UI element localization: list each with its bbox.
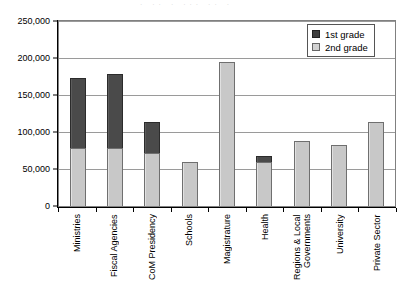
- bar-segment-second-grade: [107, 148, 123, 206]
- bar-stack[interactable]: [368, 122, 384, 206]
- bar-slot: [134, 21, 171, 206]
- bar-segment-first-grade: [144, 122, 160, 152]
- x-axis-label: Ministries: [72, 214, 82, 308]
- x-axis-label-slot: Health: [246, 214, 284, 308]
- bar-stack[interactable]: [144, 122, 160, 206]
- x-axis-label-slot: Private Sector: [359, 214, 397, 308]
- bar-slot: [208, 21, 245, 206]
- y-axis-tick-label: 0: [45, 201, 50, 211]
- x-axis-label-slot: Schools: [171, 214, 209, 308]
- chart-legend: 1st grade2nd grade: [307, 24, 375, 57]
- stacked-bar-chart: · ·· · ··· ·· · 250,000200,000150,000100…: [0, 0, 406, 308]
- x-axis-tick-mark: [96, 208, 97, 212]
- x-axis-label-slot: Fiscal Agencies: [96, 214, 134, 308]
- x-axis-tick-mark: [321, 208, 322, 212]
- y-axis: 250,000200,000150,000100,00050,0000: [0, 20, 58, 208]
- x-axis-label: Private Sector: [372, 214, 382, 308]
- x-axis-ticks: [58, 208, 396, 213]
- bar-segment-first-grade: [107, 74, 123, 148]
- x-axis-tick-mark: [133, 208, 134, 212]
- y-axis-tick-label: 150,000: [17, 90, 50, 100]
- first-grade-swatch-icon: [312, 30, 320, 38]
- x-axis-label: CoM Presidency: [147, 214, 157, 308]
- x-axis-label-slot: CoM Presidency: [133, 214, 171, 308]
- bar-stack[interactable]: [107, 74, 123, 206]
- x-axis-label-slot: Regions & Local Governments: [283, 214, 321, 308]
- y-axis-tick-label: 100,000: [17, 127, 50, 137]
- x-axis-label: Regions & Local Governments: [292, 214, 312, 306]
- x-axis-label: Fiscal Agencies: [109, 214, 119, 308]
- x-axis-label-slot: Ministries: [58, 214, 96, 308]
- bar-segment-second-grade: [294, 141, 310, 206]
- x-axis-tick-mark: [58, 208, 59, 212]
- bar-segment-second-grade: [368, 122, 384, 206]
- bar-stack[interactable]: [182, 162, 198, 206]
- x-axis-label-slot: Magistrature: [208, 214, 246, 308]
- legend-label: 1st grade: [325, 29, 365, 40]
- bar-segment-second-grade: [182, 162, 198, 206]
- bar-stack[interactable]: [219, 62, 235, 206]
- bar-stack[interactable]: [331, 145, 347, 206]
- x-axis-tick-mark: [171, 208, 172, 212]
- y-axis-tick-label: 50,000: [22, 164, 50, 174]
- bar-slot: [59, 21, 96, 206]
- bar-segment-second-grade: [256, 162, 272, 206]
- legend-entry[interactable]: 2nd grade: [312, 41, 368, 53]
- x-axis-tick-mark: [208, 208, 209, 212]
- bar-segment-first-grade: [256, 156, 272, 163]
- bar-stack[interactable]: [256, 156, 272, 206]
- legend-label: 2nd grade: [325, 42, 368, 53]
- clipped-header-text: · ·· · ··· ·· ·: [140, 0, 406, 9]
- x-axis-tick-mark: [283, 208, 284, 212]
- bar-segment-second-grade: [219, 62, 235, 206]
- x-axis-tick-mark: [246, 208, 247, 212]
- bar-stack[interactable]: [70, 78, 86, 206]
- bar-slot: [246, 21, 283, 206]
- x-axis-tick-mark: [358, 208, 359, 212]
- second-grade-swatch-icon: [312, 43, 320, 51]
- bar-segment-first-grade: [70, 78, 86, 148]
- x-axis-tick-mark: [396, 208, 397, 212]
- x-axis-labels: MinistriesFiscal AgenciesCoM PresidencyS…: [58, 214, 396, 308]
- x-axis-label-slot: University: [321, 214, 359, 308]
- y-axis-tick-label: 250,000: [17, 16, 50, 26]
- x-axis-label: Magistrature: [222, 214, 232, 308]
- x-axis-label: University: [335, 214, 345, 308]
- bar-slot: [171, 21, 208, 206]
- bar-slot: [96, 21, 133, 206]
- x-axis-label: Health: [260, 214, 270, 308]
- y-axis-tick-label: 200,000: [17, 53, 50, 63]
- legend-entry[interactable]: 1st grade: [312, 28, 368, 40]
- x-axis-label: Schools: [184, 214, 194, 308]
- bar-stack[interactable]: [294, 141, 310, 206]
- bar-segment-second-grade: [70, 148, 86, 206]
- bar-segment-second-grade: [144, 153, 160, 206]
- bar-segment-second-grade: [331, 145, 347, 206]
